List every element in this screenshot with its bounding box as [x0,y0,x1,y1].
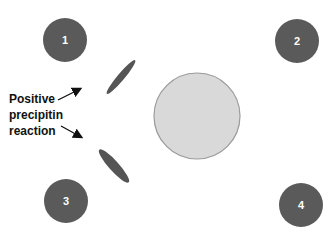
well-2: 2 [275,19,319,63]
annotation-line-2: precipitin [9,107,63,123]
well-1-label: 1 [62,34,68,46]
well-3: 3 [44,179,88,223]
well-3-label: 3 [63,195,69,207]
annotation-line-1: Positive [9,91,63,107]
well-1: 1 [43,18,87,62]
precipitin-line-lower [96,146,133,185]
well-2-label: 2 [294,35,300,47]
arrow-lower-icon [61,126,81,137]
well-4-label: 4 [298,199,305,211]
annotation-line-3: reaction [9,123,63,139]
annotation-label: Positive precipitin reaction [9,91,63,139]
precipitin-line-upper [104,58,138,96]
center-well [154,73,240,159]
well-4: 4 [279,183,323,227]
